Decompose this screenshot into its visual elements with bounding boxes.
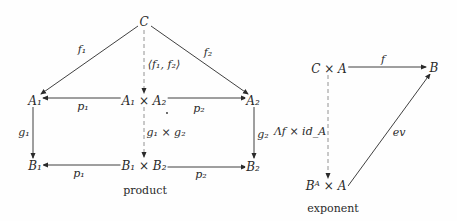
node-B1: B₁ [27, 160, 43, 172]
label-g1xg2: g₁ × g₂ [146, 127, 185, 138]
label-g1: g₁ [18, 127, 29, 138]
label-pair: ⟨f₁, f₂⟩ [148, 59, 181, 70]
arrow-f1 [41, 26, 138, 94]
label-f2: f₂ [204, 47, 212, 58]
node-CxA: C × A [310, 63, 348, 75]
arrow-ev [348, 74, 430, 186]
node-A2: A₂ [245, 95, 260, 107]
stray-dot [166, 112, 168, 114]
label-p1-bottom: p₁ [73, 168, 84, 179]
diagram-canvas: C A₁ A₁ × A₂ A₂ B₁ B₁ × B₂ B₂ f₁ f₂ ⟨f₁,… [0, 0, 457, 221]
node-A1xA2: A₁ × A₂ [121, 95, 168, 107]
node-B2: B₂ [245, 161, 261, 173]
caption-exponent: exponent [307, 203, 358, 214]
label-p2-top: p₂ [193, 103, 204, 114]
node-A1: A₁ [27, 95, 42, 107]
arrows-layer [0, 0, 457, 221]
label-ev: ev [393, 127, 406, 138]
label-f1: f₁ [78, 44, 86, 55]
label-p2-bottom: p₂ [195, 169, 206, 180]
node-BAxA: Bᴬ × A [305, 180, 348, 192]
node-B: B [429, 62, 440, 74]
label-lambda: Λf × id_A [274, 126, 326, 137]
label-f: f [381, 54, 385, 65]
node-C: C [138, 16, 149, 28]
label-g2: g₂ [257, 129, 268, 140]
node-B1xB2: B₁ × B₂ [121, 160, 168, 172]
caption-product: product [123, 185, 167, 196]
label-p1-top: p₁ [77, 101, 88, 112]
